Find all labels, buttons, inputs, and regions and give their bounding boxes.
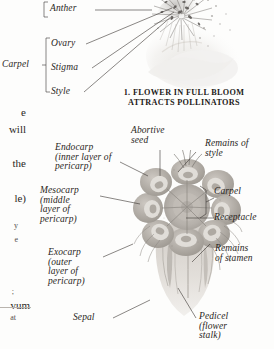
anther-bracket xyxy=(44,2,48,17)
label-endocarp: Endocarp (inner layer of pericarp) xyxy=(55,143,111,172)
column-bleed-line-6: e xyxy=(0,236,18,244)
figure-1-caption-line-2: ATTRACTS POLLINATORS xyxy=(96,98,272,109)
column-bleed-line-7: ; xyxy=(0,288,14,296)
label-style: Style xyxy=(51,87,70,97)
label-carpel-fruit: Carpel xyxy=(214,187,241,197)
fruit-photo-art xyxy=(128,150,248,320)
label-mesocarp: Mesocarp (middle layer of pericarp) xyxy=(40,186,79,224)
label-pedicel: Pedicel (flower stalk) xyxy=(199,312,228,341)
flower-photo-art xyxy=(142,0,272,90)
label-anther: Anther xyxy=(50,4,76,14)
column-bleed-line-2: will xyxy=(0,124,26,135)
figure-1-caption-line-1: 1. FLOWER IN FULL BLOOM xyxy=(96,88,272,99)
label-sepal: Sepal xyxy=(73,313,95,323)
label-carpel-group: Carpel xyxy=(2,60,29,70)
label-exocarp: Exocarp (outer layer of pericarp) xyxy=(48,248,85,286)
column-bleed-line-5: y xyxy=(0,222,18,230)
carpel-bracket-outer xyxy=(46,38,50,92)
label-remains-of-stamen: Remains of stamen xyxy=(215,244,253,263)
label-ovary: Ovary xyxy=(51,39,75,49)
column-rule xyxy=(0,307,31,308)
label-stigma: Stigma xyxy=(51,63,78,73)
label-remains-of-style: Remains of style xyxy=(205,139,248,158)
fruit-cross-section-photograph xyxy=(128,150,248,320)
column-bleed-line-4: le) xyxy=(0,193,26,204)
column-bleed-line-9: at xyxy=(0,314,16,322)
column-bleed-line-8: vum xyxy=(0,300,30,311)
column-bleed-line-3: the xyxy=(0,158,26,169)
label-abortive-seed: Abortive seed xyxy=(131,126,165,145)
flower-photograph xyxy=(142,0,272,90)
column-bleed-line-1: e xyxy=(0,107,26,118)
book-page: Anther Carpel Ovary Stigma Style 1. FLOW… xyxy=(0,0,274,349)
label-receptacle: Receptacle xyxy=(214,213,257,223)
